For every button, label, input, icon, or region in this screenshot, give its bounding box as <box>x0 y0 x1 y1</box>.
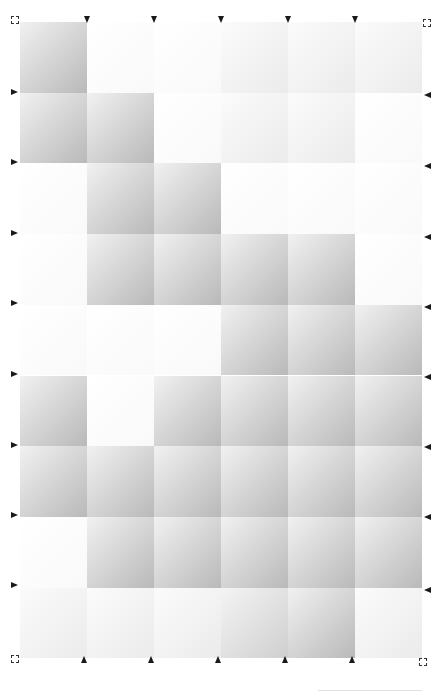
grid-cell <box>154 22 221 93</box>
grid-cell <box>221 22 288 93</box>
grid-cell <box>87 517 154 588</box>
grid-cell <box>355 93 422 164</box>
grid-cell <box>87 234 154 305</box>
triangle-left-icon <box>424 444 431 450</box>
grid-cell <box>355 588 422 659</box>
triangle-down-icon <box>352 16 358 23</box>
triangle-down-icon <box>218 16 224 23</box>
triangle-left-icon <box>424 514 431 520</box>
grid-cell <box>221 93 288 164</box>
grid-cell <box>221 305 288 376</box>
grid-cell <box>288 305 355 376</box>
corner-crop-mark-icon <box>423 19 431 27</box>
grid-cell <box>154 376 221 447</box>
grid-cell <box>20 305 87 376</box>
grid-cell <box>87 93 154 164</box>
grid-cell <box>355 305 422 376</box>
triangle-left-icon <box>424 163 431 169</box>
grid-cell <box>20 93 87 164</box>
triangle-right-icon <box>11 512 18 518</box>
grid-cell <box>221 517 288 588</box>
triangle-left-icon <box>424 92 431 98</box>
triangle-up-icon <box>81 656 87 663</box>
grid-cell <box>154 93 221 164</box>
grid-cell <box>355 446 422 517</box>
grid-cell <box>87 22 154 93</box>
grid-cell <box>355 234 422 305</box>
grid-cell <box>20 446 87 517</box>
grid-cell <box>20 517 87 588</box>
triangle-right-icon <box>11 442 18 448</box>
grid-cell <box>154 163 221 234</box>
grid-cell <box>20 234 87 305</box>
footer-line <box>318 690 422 691</box>
grid-cell <box>355 163 422 234</box>
corner-crop-mark-icon <box>419 658 427 666</box>
grid-cell <box>288 517 355 588</box>
grid-cell <box>87 305 154 376</box>
grid-cell <box>221 376 288 447</box>
calibration-grid <box>20 22 422 658</box>
triangle-right-icon <box>11 159 18 165</box>
triangle-up-icon <box>215 656 221 663</box>
triangle-up-icon <box>282 656 288 663</box>
grid-cell <box>288 163 355 234</box>
grid-cell <box>154 517 221 588</box>
grid-cell <box>221 163 288 234</box>
triangle-left-icon <box>424 304 431 310</box>
triangle-down-icon <box>285 16 291 23</box>
grid-cell <box>154 446 221 517</box>
grid-cell <box>221 234 288 305</box>
grid-cell <box>20 376 87 447</box>
triangle-left-icon <box>424 374 431 380</box>
grid-cell <box>20 588 87 659</box>
triangle-right-icon <box>11 371 18 377</box>
grid-cell <box>288 234 355 305</box>
grid-cell <box>288 588 355 659</box>
triangle-up-icon <box>349 656 355 663</box>
grid-cell <box>355 22 422 93</box>
triangle-up-icon <box>148 656 154 663</box>
grid-cell <box>288 22 355 93</box>
triangle-right-icon <box>11 230 18 236</box>
grid-cell <box>154 305 221 376</box>
grid-cell <box>20 163 87 234</box>
grid-cell <box>154 234 221 305</box>
grid-cell <box>20 22 87 93</box>
triangle-down-icon <box>84 16 90 23</box>
triangle-down-icon <box>151 16 157 23</box>
grid-cell <box>221 588 288 659</box>
grid-cell <box>87 163 154 234</box>
triangle-right-icon <box>11 582 18 588</box>
grid-cell <box>87 588 154 659</box>
corner-crop-mark-icon <box>11 655 19 663</box>
triangle-left-icon <box>424 234 431 240</box>
corner-crop-mark-icon <box>11 16 19 24</box>
grid-cell <box>355 517 422 588</box>
grid-cell <box>221 446 288 517</box>
grid-cell <box>87 376 154 447</box>
triangle-left-icon <box>424 587 431 593</box>
grid-cell <box>154 588 221 659</box>
grid-cell <box>355 376 422 447</box>
grid-cell <box>87 446 154 517</box>
triangle-right-icon <box>11 300 18 306</box>
grid-cell <box>288 376 355 447</box>
triangle-right-icon <box>11 89 18 95</box>
grid-cell <box>288 446 355 517</box>
grid-cell <box>288 93 355 164</box>
